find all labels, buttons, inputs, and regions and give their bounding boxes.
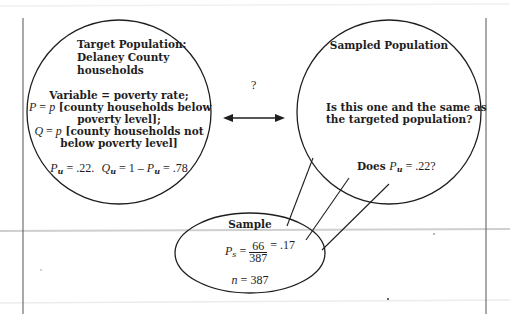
target-population-values: Pu = .22. Qu = 1 – Pu = .78 — [29, 162, 209, 177]
connector-line-1 — [287, 158, 313, 226]
q-definition: Q = p [county households not — [29, 125, 209, 137]
variable-line: Variable = poverty rate; — [29, 89, 209, 101]
stray-dot — [40, 269, 41, 270]
scan-line-lower — [0, 300, 510, 303]
p-definition: P = p [county households below — [29, 101, 209, 113]
stray-dot — [433, 233, 435, 235]
title-line: households — [77, 64, 186, 76]
fraction: 66387 — [249, 241, 267, 264]
sampled-population-title: Sampled Population — [299, 39, 479, 51]
sampled-population-check: Does Pu = .22? — [357, 160, 436, 175]
question-line: Is this one and the same as — [326, 101, 487, 113]
question-line: the targeted population? — [326, 113, 487, 125]
target-population-title: Target Population: Delaney County househ… — [77, 38, 186, 76]
question-mark: ? — [251, 79, 256, 91]
double-headed-arrow-icon — [223, 114, 285, 122]
sample-proportion: Ps = 66387 = .17 — [225, 239, 295, 264]
q-definition-cont: below poverty level] — [29, 137, 209, 149]
connector-line-3 — [322, 184, 389, 250]
sampling-diagram: Target Population: Delaney County househ… — [0, 0, 510, 314]
target-population-definitions: Variable = poverty rate; P = p [county h… — [29, 89, 209, 149]
sampled-population-question: Is this one and the same as the targeted… — [326, 101, 487, 125]
title-line: Delaney County — [77, 51, 186, 63]
scan-line-top — [0, 4, 510, 6]
stray-dot — [387, 298, 389, 300]
sample-size: n = 387 — [200, 274, 300, 286]
title-line: Target Population: — [77, 38, 186, 50]
sample-title: Sample — [200, 218, 300, 230]
